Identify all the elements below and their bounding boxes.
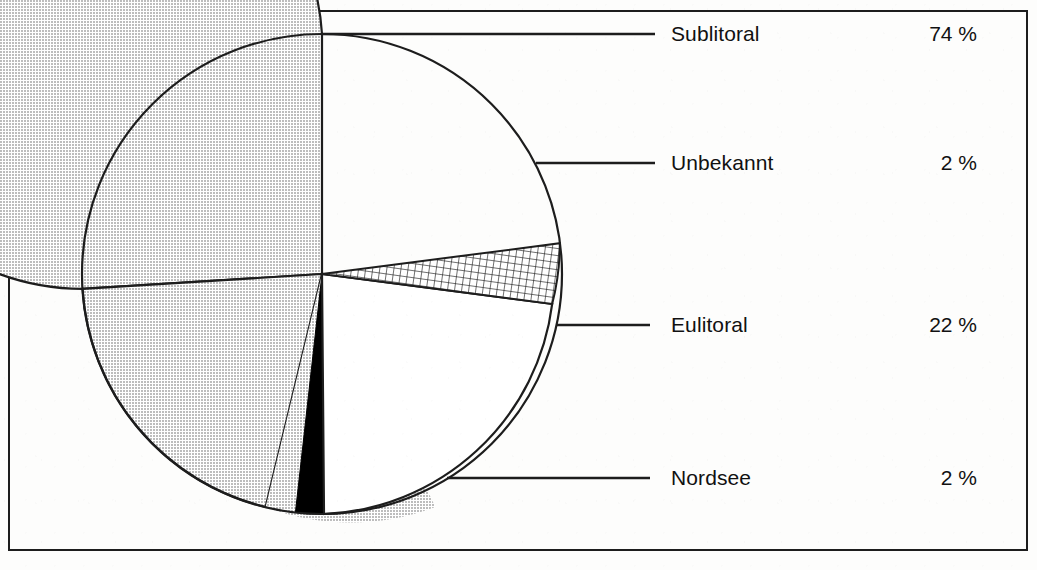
legend-row-sublitoral[interactable]: Sublitoral 74 % [671,19,977,49]
legend-value-sublitoral: 74 % [929,22,977,46]
legend-row-nordsee[interactable]: Nordsee 2 % [671,463,977,493]
legend-row-unbekannt[interactable]: Unbekannt 2 % [671,148,977,178]
legend-value-unbekannt: 2 % [941,151,977,175]
legend-label-eulitoral: Eulitoral [671,313,748,337]
legend-row-eulitoral[interactable]: Eulitoral 22 % [671,310,977,340]
legend-label-unbekannt: Unbekannt [671,151,773,175]
legend-label-nordsee: Nordsee [671,466,751,490]
legend-label-sublitoral: Sublitoral [671,22,760,46]
legend-value-eulitoral: 22 % [929,313,977,337]
chart-page: Sublitoral 74 % Unbekannt 2 % Eulitoral … [0,0,1037,570]
pie-slice-sublitoral[interactable] [0,0,322,289]
legend-value-nordsee: 2 % [941,466,977,490]
